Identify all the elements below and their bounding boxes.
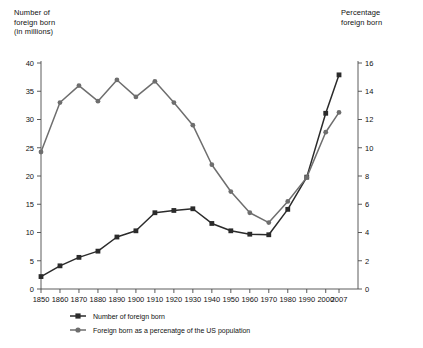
data-point-marker <box>58 263 63 268</box>
x-tick-label: 1920 <box>166 295 183 304</box>
right-tick-label: 0 <box>365 285 369 294</box>
data-point-marker <box>304 175 309 180</box>
right-tick-label: 16 <box>365 59 373 68</box>
left-axis-title: Number of foreign born (in millions) <box>14 8 55 37</box>
data-point-marker <box>171 100 176 105</box>
x-tick-label: 1950 <box>222 295 239 304</box>
right-tick-label: 12 <box>365 115 373 124</box>
right-axis-ticks: 0246810121416 <box>358 59 373 294</box>
right-tick-label: 8 <box>365 172 369 181</box>
series-line-1 <box>41 75 339 277</box>
data-point-marker <box>134 95 139 100</box>
legend-label-1: Number of foreign born <box>93 313 165 321</box>
chart-container: Number of foreign born (in millions) Per… <box>0 0 423 348</box>
data-point-marker <box>285 199 290 204</box>
data-point-marker <box>115 78 120 83</box>
legend-marker <box>75 313 80 318</box>
data-point-marker <box>152 210 157 215</box>
chart-plot-area: 0510152025303540 0246810121416 185018601… <box>0 0 423 348</box>
x-tick-label: 1850 <box>33 295 50 304</box>
x-tick-label: 1860 <box>52 295 69 304</box>
data-point-marker <box>96 99 101 104</box>
data-point-marker <box>266 232 271 237</box>
left-tick-label: 25 <box>26 144 34 153</box>
data-point-marker <box>337 72 342 77</box>
data-point-marker <box>39 150 44 155</box>
data-point-marker <box>228 228 233 233</box>
data-point-marker <box>323 130 328 135</box>
x-axis-ticks: 1850186018701880189019001910192019301940… <box>33 289 348 304</box>
right-axis-title: Percentage foreign born <box>341 8 382 27</box>
x-tick-label: 1980 <box>279 295 296 304</box>
left-axis-ticks: 0510152025303540 <box>26 59 41 294</box>
legend-marker <box>75 327 80 332</box>
data-point-marker <box>77 255 82 260</box>
x-tick-label: 1900 <box>128 295 145 304</box>
left-tick-label: 30 <box>26 115 34 124</box>
data-point-marker <box>209 221 214 226</box>
series-group <box>39 72 342 279</box>
x-tick-label: 1890 <box>109 295 126 304</box>
left-tick-label: 0 <box>30 285 34 294</box>
left-tick-label: 20 <box>26 172 34 181</box>
data-point-marker <box>209 162 214 167</box>
right-tick-label: 4 <box>365 228 369 237</box>
data-point-marker <box>134 228 139 233</box>
data-point-marker <box>323 111 328 116</box>
left-tick-label: 10 <box>26 228 34 237</box>
x-tick-label: 1970 <box>260 295 277 304</box>
data-point-marker <box>228 189 233 194</box>
series-line-2 <box>41 80 339 223</box>
right-tick-label: 2 <box>365 257 369 266</box>
right-tick-label: 10 <box>365 144 373 153</box>
data-point-marker <box>190 206 195 211</box>
data-point-marker <box>115 235 120 240</box>
x-tick-label: 1910 <box>147 295 164 304</box>
legend-label-2: Foreign born as a percenatge of the US p… <box>93 327 250 335</box>
right-tick-label: 14 <box>365 87 373 96</box>
x-tick-label: 1880 <box>90 295 107 304</box>
left-tick-label: 15 <box>26 200 34 209</box>
data-point-marker <box>96 249 101 254</box>
right-tick-label: 6 <box>365 200 369 209</box>
chart-legend: Number of foreign bornForeign born as a … <box>70 313 250 335</box>
left-tick-label: 5 <box>30 257 34 266</box>
data-point-marker <box>266 220 271 225</box>
x-tick-label: 1960 <box>241 295 258 304</box>
data-point-marker <box>39 274 44 279</box>
left-tick-label: 40 <box>26 59 34 68</box>
x-tick-label: 1930 <box>185 295 202 304</box>
data-point-marker <box>58 100 63 105</box>
data-point-marker <box>285 207 290 212</box>
x-tick-label: 1870 <box>71 295 88 304</box>
data-point-marker <box>77 83 82 88</box>
x-tick-label: 1940 <box>203 295 220 304</box>
data-point-marker <box>247 210 252 215</box>
data-point-marker <box>190 123 195 128</box>
data-point-marker <box>337 110 342 115</box>
x-tick-label: 1990 <box>298 295 315 304</box>
data-point-marker <box>247 232 252 237</box>
data-point-marker <box>152 79 157 84</box>
x-tick-label: 2007 <box>331 295 348 304</box>
left-tick-label: 35 <box>26 87 34 96</box>
data-point-marker <box>171 208 176 213</box>
